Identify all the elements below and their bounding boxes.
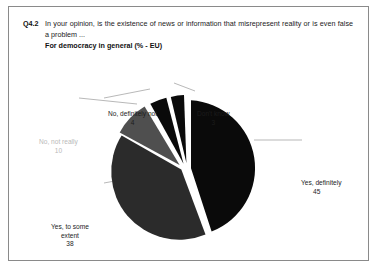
question-text: In your opinion, is the existence of new…: [45, 19, 353, 40]
leader-line-dont-know: [174, 83, 195, 91]
pie-label-yes-to-some-extent-line2: extent: [51, 232, 89, 241]
pie-chart: No, definitely not 4 Don't know 3 No, no…: [9, 51, 368, 260]
leader-line-no-definitely-not: [104, 89, 150, 98]
pie-label-yes-definitely: Yes, definitely 45: [301, 179, 341, 196]
pie-value-yes-to-some-extent: 38: [51, 240, 89, 249]
pie-value-no-definitely-not: 4: [108, 119, 157, 128]
pie-value-yes-definitely: 45: [301, 188, 341, 197]
question-block: Q4.2 In your opinion, is the existence o…: [23, 19, 353, 51]
pie-label-yes-to-some-extent: Yes, to some extent 38: [51, 223, 89, 249]
pie-label-dont-know-text: Don't know: [197, 110, 229, 117]
pie-value-dont-know: 3: [197, 119, 229, 128]
pie-label-yes-definitely-text: Yes, definitely: [301, 179, 341, 186]
pie-label-no-definitely-not-text: No, definitely not: [108, 110, 157, 117]
chart-card-frame: Q4.2 In your opinion, is the existence o…: [8, 6, 369, 261]
question-code: Q4.2: [23, 19, 45, 29]
leader-line-no-not-really: [79, 98, 137, 104]
pie-label-no-not-really-text: No, not really: [39, 138, 78, 145]
pie-label-yes-to-some-extent-line1: Yes, to some: [51, 223, 89, 230]
pie-value-no-not-really: 10: [39, 147, 78, 156]
question-subtitle: For democracy in general (% - EU): [45, 41, 353, 51]
pie-label-no-not-really: No, not really 10: [39, 138, 78, 155]
question-row: Q4.2 In your opinion, is the existence o…: [23, 19, 353, 40]
pie-label-dont-know: Don't know 3: [197, 110, 229, 127]
pie-label-no-definitely-not: No, definitely not 4: [108, 110, 157, 127]
